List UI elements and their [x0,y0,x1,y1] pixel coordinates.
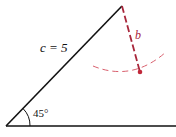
side-c-label: c = 5 [40,40,68,56]
triangle-diagram: c = 5 b 45° [0,0,176,137]
swing-arc [93,52,166,72]
side-b-label: b [135,28,141,43]
diagram-svg [0,0,176,137]
side-c [6,6,122,126]
angle-arc [23,109,30,127]
intersection-point [138,70,143,75]
angle-label: 45° [33,107,48,119]
